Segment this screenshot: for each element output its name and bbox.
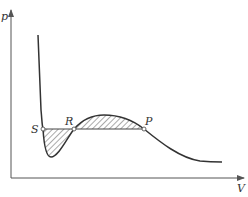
y-axis-label: p — [1, 10, 8, 23]
point-p-label: P — [144, 115, 153, 128]
point-s-label: S — [31, 123, 39, 136]
x-axis-label: V — [237, 182, 246, 195]
diagram-svg: p V S R P — [0, 0, 248, 197]
isotherm-curve — [38, 35, 222, 162]
point-s-marker — [41, 127, 45, 131]
pv-diagram: p V S R P — [0, 0, 248, 197]
point-r-label: R — [64, 115, 73, 128]
